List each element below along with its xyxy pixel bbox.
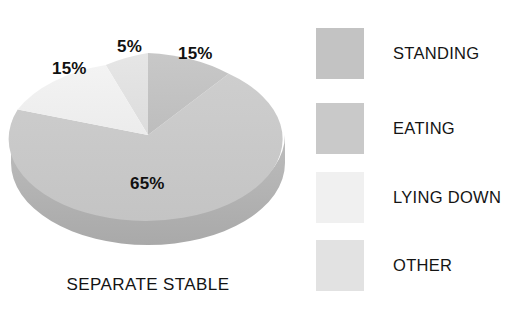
pie-chart-figure: 15% 65% 15% 5% SEPARATE STABLE STANDING … <box>0 0 522 315</box>
legend-item-eating: EATING <box>316 102 455 154</box>
pie-label-standing: 15% <box>178 45 213 62</box>
pie-top-face <box>9 53 283 221</box>
pie-label-eating: 65% <box>130 175 165 192</box>
legend-label-standing: STANDING <box>393 45 479 62</box>
legend-item-standing: STANDING <box>316 27 479 79</box>
legend-swatch-standing <box>316 28 364 79</box>
legend-swatch-eating <box>316 103 364 154</box>
legend-swatch-lying-down <box>316 172 364 223</box>
pie-label-other: 5% <box>117 38 142 55</box>
legend-swatch-other <box>316 240 364 291</box>
legend-label-other: OTHER <box>393 257 452 274</box>
legend-item-other: OTHER <box>316 239 452 291</box>
pie-label-lying-down: 15% <box>52 60 87 77</box>
chart-caption: SEPARATE STABLE <box>0 276 296 293</box>
legend-label-lying-down: LYING DOWN <box>393 189 501 206</box>
pie-chart-graphic <box>0 0 300 275</box>
legend-label-eating: EATING <box>393 120 455 137</box>
legend-item-lying-down: LYING DOWN <box>316 171 501 223</box>
chart-legend: STANDING EATING LYING DOWN OTHER <box>316 0 522 315</box>
pie-chart-area: 15% 65% 15% 5% SEPARATE STABLE <box>0 0 300 315</box>
